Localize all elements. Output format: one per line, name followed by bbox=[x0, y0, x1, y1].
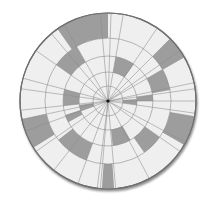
polar-grid-svg bbox=[0, 0, 209, 204]
center-dot bbox=[106, 99, 109, 102]
polar-grid-diagram bbox=[0, 0, 209, 204]
center-point bbox=[106, 99, 109, 102]
shaded-cell bbox=[102, 164, 114, 189]
